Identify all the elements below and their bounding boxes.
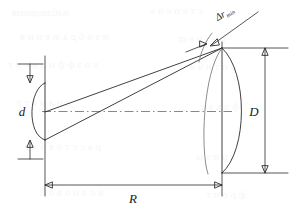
label-separation: R [128,191,137,206]
label-delta-r-main: Δr [212,8,227,23]
delta-r-arrowhead [210,39,219,46]
wavefront-arc [204,48,222,174]
label-delta-r-subscript: min [225,9,236,19]
label-small-aperture: d [19,104,26,119]
large-lens-convex-surface [222,48,242,173]
optical-diagram-figure: наблюдения с т е п е н ь и з о б р а ж е… [0,0,296,212]
lower-converging-ray [45,48,222,112]
label-large-aperture: D [248,104,259,119]
upper-converging-ray [45,48,222,140]
wavefront-arc-upper-segment [199,33,212,62]
label-delta-r: Δrmin [212,3,236,24]
diagram-canvas: d Δrmin D [0,0,296,212]
